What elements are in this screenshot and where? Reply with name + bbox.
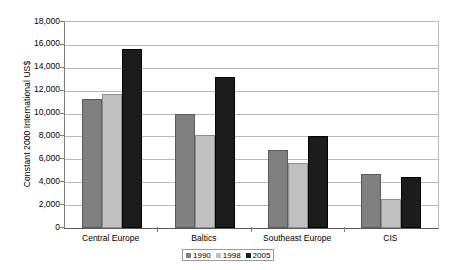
bar-cis-2005 — [401, 177, 421, 229]
y-tick-label: 8,000 — [22, 131, 60, 140]
y-tick-label: 0 — [22, 223, 60, 232]
gridline — [65, 45, 438, 46]
legend-item-2005[interactable]: 2005 — [246, 251, 271, 260]
bar-cis-1998 — [381, 199, 401, 228]
legend-item-1998[interactable]: 1998 — [216, 251, 241, 260]
y-tick-label: 4,000 — [22, 177, 60, 186]
legend-swatch-icon — [186, 253, 191, 258]
x-category-label-southeast-europe: Southeast Europe — [251, 233, 344, 244]
plot-area — [64, 21, 439, 229]
bar-southeast-europe-2005 — [308, 136, 328, 228]
x-category-label-central-europe: Central Europe — [64, 233, 157, 244]
legend-swatch-icon — [246, 253, 251, 258]
y-tick-label: 10,000 — [22, 108, 60, 117]
bar-central-europe-1998 — [102, 94, 122, 228]
bar-southeast-europe-1998 — [288, 163, 308, 228]
bar-central-europe-1990 — [82, 99, 102, 228]
bar-southeast-europe-1990 — [268, 150, 288, 228]
bar-chart: Constant 2000 International US$ 02,0004,… — [0, 0, 452, 270]
bar-baltics-1990 — [175, 114, 195, 228]
y-tick-label: 16,000 — [22, 39, 60, 48]
y-tick-label: 14,000 — [22, 62, 60, 71]
x-tick-mark — [251, 227, 252, 232]
x-category-label-baltics: Baltics — [157, 233, 250, 244]
bar-baltics-1998 — [195, 135, 215, 228]
y-tick-label: 18,000 — [22, 17, 60, 26]
legend-swatch-icon — [216, 253, 221, 258]
x-tick-mark — [157, 227, 158, 232]
legend-label: 1990 — [193, 251, 211, 260]
y-tick-label: 6,000 — [22, 154, 60, 163]
bar-central-europe-2005 — [122, 49, 142, 228]
y-tick-label: 2,000 — [22, 200, 60, 209]
y-axis-title: Constant 2000 International US$ — [20, 21, 34, 227]
y-tick-label: 12,000 — [22, 85, 60, 94]
x-category-label-cis: CIS — [344, 233, 437, 244]
legend-label: 1998 — [223, 251, 241, 260]
chart-legend: 199019982005 — [182, 249, 274, 261]
legend-item-1990[interactable]: 1990 — [186, 251, 211, 260]
x-tick-mark — [344, 227, 345, 232]
bar-baltics-2005 — [215, 77, 235, 228]
bar-cis-1990 — [361, 174, 381, 228]
legend-label: 2005 — [253, 251, 271, 260]
